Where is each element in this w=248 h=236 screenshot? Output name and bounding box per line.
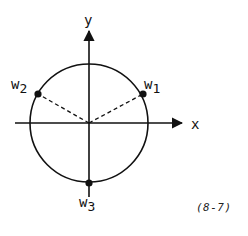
point-w3 [85,179,92,186]
label-w3: w3 [79,194,95,214]
point-w2 [34,90,41,97]
equation-number: (8-7) [196,201,232,214]
y-axis-label: y [84,12,92,28]
radius-w1 [89,94,143,123]
label-w2: w2 [11,76,27,96]
x-axis-label: x [191,116,199,132]
radius-w2 [38,94,89,123]
